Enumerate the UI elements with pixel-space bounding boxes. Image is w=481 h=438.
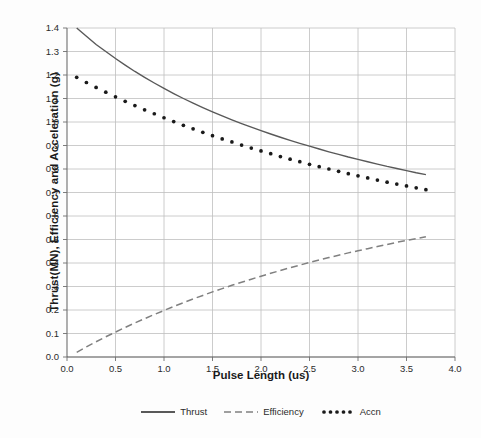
series-point-accn [162,116,166,120]
legend-dot [328,410,332,414]
series-point-accn [405,184,409,188]
series-point-accn [366,176,370,180]
series-point-accn [230,140,234,144]
legend-swatch-efficiency-icon [224,407,258,417]
y-tick-label: 0.5 [35,234,59,245]
series-point-accn [104,90,108,94]
y-tick-label: 1.0 [35,116,59,127]
legend-dot [348,410,352,414]
series-point-accn [385,180,389,184]
chart-container: Thrust(MN), Efficiency and Acceleration … [0,0,481,438]
series-point-accn [133,104,137,108]
y-tick-label: 0.3 [35,281,59,292]
y-tick-label: 0.4 [35,257,59,268]
legend-item-accn[interactable]: Accn [321,407,381,417]
legend-dot [341,410,345,414]
legend-swatch-thrust-icon [141,407,175,417]
chart-legend: ThrustEfficiencyAccn [67,407,455,417]
series-point-accn [201,130,205,134]
legend-item-efficiency[interactable]: Efficiency [224,407,303,417]
series-point-accn [249,146,253,150]
series-point-accn [123,99,127,103]
y-tick-label: 0.2 [35,304,59,315]
series-point-accn [94,86,98,90]
y-tick-label: 1.2 [35,69,59,80]
y-tick-label: 0.7 [35,187,59,198]
series-point-accn [240,143,244,147]
legend-dot [322,410,326,414]
y-tick-label: 0.0 [35,351,59,362]
series-point-accn [191,127,195,131]
series-point-accn [269,152,273,156]
series-point-accn [143,108,147,112]
legend-dot [335,410,339,414]
series-point-accn [259,149,263,153]
series-point-accn [75,76,79,80]
x-axis-title: Pulse Length (us) [67,369,455,381]
legend-label: Efficiency [263,407,303,417]
series-point-accn [346,172,350,176]
series-point-accn [298,160,302,164]
legend-swatch-accn-icon [321,407,355,417]
series-point-accn [114,95,118,99]
y-tick-label: 1.1 [35,93,59,104]
y-tick-label: 0.6 [35,210,59,221]
series-point-accn [356,174,360,178]
y-tick-label: 0.8 [35,163,59,174]
legend-item-thrust[interactable]: Thrust [141,407,207,417]
series-point-accn [327,167,331,171]
series-point-accn [424,188,428,192]
series-point-accn [211,134,215,138]
series-point-accn [85,81,89,85]
series-point-accn [172,120,176,124]
y-tick-label: 0.1 [35,328,59,339]
series-point-accn [337,170,341,174]
series-point-accn [288,157,292,161]
series-point-accn [308,162,312,166]
legend-label: Thrust [180,407,207,417]
series-point-accn [152,112,156,116]
series-point-accn [376,178,380,182]
series-point-accn [279,155,283,159]
series-point-accn [182,123,186,127]
series-point-accn [317,165,321,169]
series-point-accn [395,182,399,186]
series-point-accn [414,186,418,190]
legend-label: Accn [360,407,381,417]
series-point-accn [220,137,224,141]
y-tick-label: 0.9 [35,140,59,151]
y-tick-label: 1.4 [35,22,59,33]
y-tick-label: 1.3 [35,46,59,57]
